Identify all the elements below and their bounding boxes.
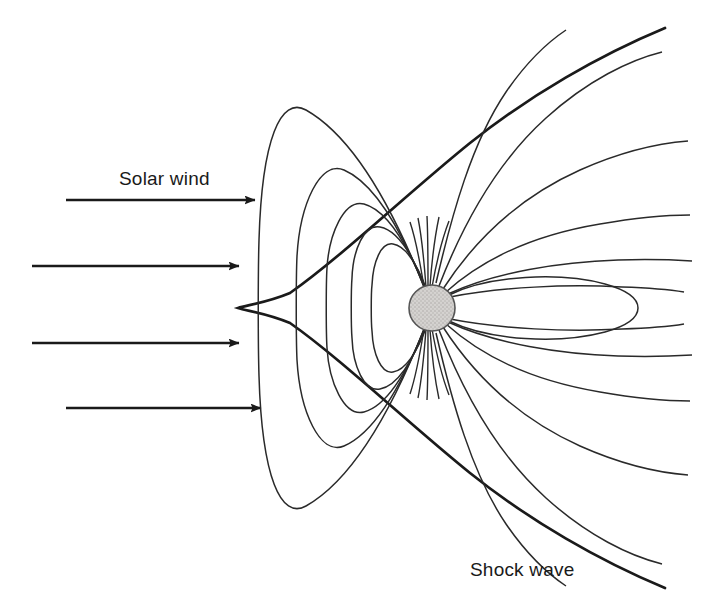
tail-field-lines-south [436,319,692,586]
magnetopause-arc-2 [296,169,425,448]
solar-wind-label: Solar wind [119,168,210,190]
solar-wind-arrows [32,200,261,408]
earth-planet [409,285,455,331]
tail-line-n5 [450,286,684,297]
magnetopause-arc-1 [258,107,424,508]
magnetopause-arcs [258,107,428,508]
tail-field-lines-north [436,30,692,297]
tail-line-s5 [450,319,684,330]
magnetosphere-figure: Solar wind Shock wave [0,0,708,612]
shock-wave-label: Shock wave [470,559,574,581]
diagram-canvas [0,0,708,612]
